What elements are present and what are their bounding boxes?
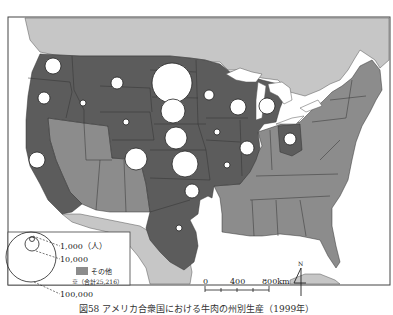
scale-label-800: 800km (262, 277, 290, 286)
scale-label-400: 400 (230, 277, 245, 286)
legend-label-100000: 100,000 (60, 290, 93, 299)
circle-mn (204, 90, 214, 100)
legend-label-10000: 10,000 (60, 255, 88, 264)
circle-il (240, 141, 254, 155)
figure-caption: 図58 アメリカ合衆国における牛肉の州別生産（1999年） (0, 302, 393, 315)
circle-tx (176, 225, 182, 231)
circle-nd (152, 63, 192, 103)
circle-wy (123, 119, 129, 125)
circle-oh (284, 133, 296, 145)
circle-or (38, 92, 50, 104)
scale-label-0: 0 (203, 277, 208, 286)
legend-other-note: ※（合計25,216） (72, 278, 123, 286)
circle-ia (214, 129, 220, 135)
circle-ok (185, 184, 199, 198)
circle-mi (259, 98, 275, 114)
circle-id (80, 100, 86, 106)
circle-co (125, 148, 147, 170)
circle-ks (172, 151, 198, 177)
circle-wi (230, 99, 246, 115)
circle-mt (111, 77, 123, 89)
circle-sd (161, 99, 185, 123)
circle-wa (45, 58, 61, 74)
legend-other-label: その他 (91, 267, 112, 276)
legend-other-swatch (76, 267, 88, 275)
legend: 1,000（人） 10,000 100,000 その他 ※（合計25,216） (6, 232, 130, 299)
circle-ca (29, 152, 45, 168)
north-label: N (298, 260, 303, 267)
circle-ne (165, 127, 187, 149)
legend-label-1000: 1,000（人） (60, 242, 107, 251)
circle-mo (224, 162, 230, 168)
